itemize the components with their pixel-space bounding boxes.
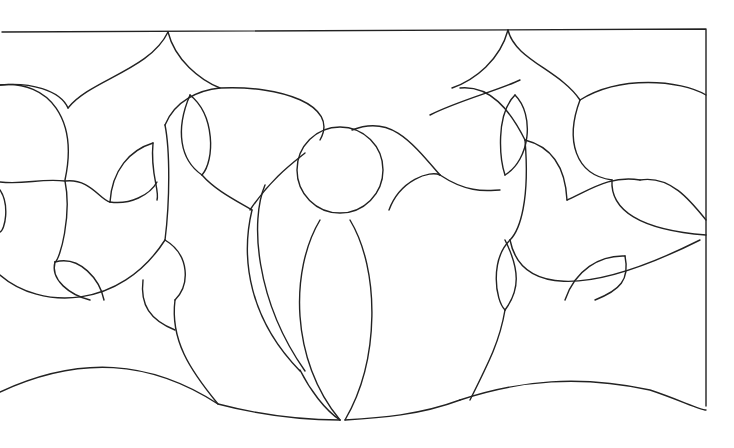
line-segment: [345, 220, 372, 420]
circle-shape: [297, 127, 383, 213]
line-segment: [0, 240, 165, 298]
line-segment: [452, 30, 508, 88]
line-segment: [612, 180, 706, 235]
line-segment: [165, 240, 185, 300]
line-segment: [640, 179, 706, 220]
line-segment: [508, 30, 580, 100]
line-segment: [110, 182, 157, 203]
line-segment: [55, 181, 67, 262]
central-circle: [297, 127, 383, 213]
line-segment: [345, 400, 460, 420]
line-segment: [580, 83, 706, 101]
line-segment: [525, 140, 567, 200]
line-segment: [510, 240, 700, 281]
line-segment: [68, 32, 168, 108]
line-segment: [152, 143, 157, 200]
line-segment: [165, 125, 169, 240]
line-segment: [168, 32, 220, 88]
line-segment: [0, 367, 340, 420]
line-segment: [300, 220, 340, 420]
line-segment: [0, 180, 110, 202]
line-segment: [0, 85, 68, 180]
line-segment: [2, 29, 706, 406]
line-art-paths: [0, 29, 706, 420]
line-segment: [55, 261, 104, 300]
line-segment: [247, 210, 300, 371]
line-segment: [352, 126, 440, 175]
line-segment: [567, 179, 640, 200]
line-segment: [258, 185, 305, 371]
line-segment: [190, 95, 211, 175]
line-segment: [165, 88, 324, 140]
line-segment: [440, 175, 500, 191]
line-segment: [142, 280, 175, 330]
line-segment: [202, 175, 252, 210]
line-segment: [565, 256, 625, 300]
line-segment: [470, 310, 505, 400]
line-segment: [181, 95, 202, 175]
line-segment: [0, 84, 68, 108]
line-segment: [505, 95, 527, 175]
line-segment: [496, 240, 510, 310]
line-segment: [250, 153, 305, 210]
line-segment: [174, 300, 218, 404]
stained-glass-drawing: [0, 0, 734, 448]
line-segment: [505, 240, 516, 310]
line-segment: [389, 174, 440, 210]
line-segment: [510, 140, 526, 240]
line-segment: [573, 100, 612, 180]
line-segment: [0, 190, 6, 232]
line-segment: [460, 381, 706, 410]
